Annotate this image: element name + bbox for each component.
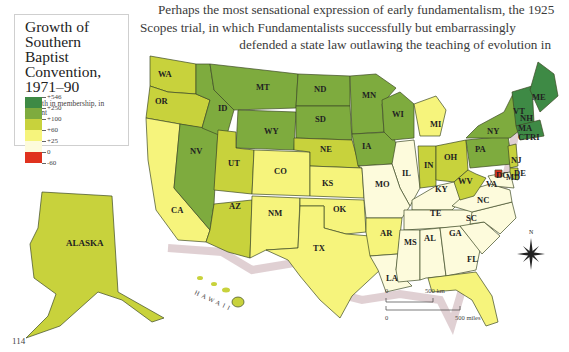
compass-rose-icon: N [517, 229, 545, 270]
svg-text:WI: WI [392, 109, 405, 119]
svg-text:SD: SD [315, 114, 326, 124]
svg-text:WY: WY [264, 126, 279, 136]
state-MI [414, 96, 446, 136]
svg-text:NM: NM [268, 208, 282, 218]
svg-text:NV: NV [190, 146, 203, 156]
svg-text:AR: AR [380, 228, 393, 238]
swatch-100 [25, 119, 42, 130]
legend-label: -60 [47, 159, 56, 167]
svg-text:MD: MD [506, 172, 520, 182]
svg-text:500 miles: 500 miles [455, 314, 481, 321]
svg-text:NH: NH [520, 113, 533, 123]
svg-text:WV: WV [458, 176, 474, 186]
legend-title: Growth of Southern Baptist Convention, 1… [25, 19, 128, 94]
swatch-0 [25, 152, 42, 163]
svg-text:AZ: AZ [229, 201, 241, 211]
svg-text:OR: OR [155, 96, 169, 106]
swatch-250 [25, 108, 42, 119]
svg-text:IA: IA [362, 141, 372, 151]
state-PA [466, 136, 512, 168]
svg-text:MO: MO [375, 179, 390, 189]
swatch-546 [25, 97, 42, 108]
svg-text:KY: KY [435, 184, 448, 194]
page-number: 114 [12, 336, 25, 346]
svg-text:ALASKA: ALASKA [66, 238, 104, 248]
svg-text:MT: MT [256, 82, 270, 92]
legend-label: +546 [47, 93, 61, 101]
swatch-25 [25, 141, 42, 152]
svg-text:RI: RI [530, 132, 540, 142]
svg-text:MN: MN [362, 90, 377, 100]
state-ALASKA [26, 192, 164, 338]
svg-text:LA: LA [386, 273, 399, 283]
legend-label: +60 [47, 126, 58, 134]
svg-text:KS: KS [322, 178, 334, 188]
svg-text:IN: IN [424, 160, 434, 170]
svg-text:NE: NE [320, 144, 332, 154]
state-KS [310, 166, 364, 198]
svg-text:UT: UT [228, 158, 240, 168]
svg-text:OK: OK [333, 204, 347, 214]
legend-label: +100 [47, 115, 61, 123]
svg-text:VA: VA [486, 179, 498, 189]
svg-text:SC: SC [466, 213, 477, 223]
map-legend: Growth of Southern Baptist Convention, 1… [14, 14, 129, 146]
svg-text:WA: WA [158, 69, 173, 79]
svg-text:OH: OH [444, 152, 458, 162]
legend-label: +250 [47, 104, 61, 112]
svg-text:0: 0 [385, 287, 388, 294]
svg-text:0: 0 [385, 314, 388, 321]
svg-text:TE: TE [430, 208, 442, 218]
svg-text:NY: NY [487, 126, 499, 136]
svg-text:CT: CT [518, 132, 530, 142]
svg-text:CO: CO [274, 166, 287, 176]
svg-text:NC: NC [477, 195, 489, 205]
svg-text:NJ: NJ [511, 155, 522, 165]
legend-label: +25 [47, 137, 58, 145]
svg-text:TX: TX [313, 243, 326, 253]
svg-text:MS: MS [404, 237, 417, 247]
state-ME [530, 62, 558, 112]
svg-text:500 km: 500 km [425, 287, 445, 294]
svg-text:IL: IL [402, 168, 411, 178]
legend-label: 0 [47, 148, 51, 156]
svg-text:PA: PA [475, 144, 487, 154]
svg-text:GA: GA [449, 228, 463, 238]
swatch-60 [25, 130, 42, 141]
svg-text:ME: ME [532, 92, 546, 102]
svg-text:ND: ND [314, 84, 326, 94]
svg-text:MI: MI [430, 119, 442, 129]
svg-text:ID: ID [218, 103, 227, 113]
svg-text:FL: FL [467, 254, 478, 264]
svg-text:CA: CA [171, 205, 184, 215]
svg-text:N: N [529, 229, 534, 235]
svg-text:AL: AL [424, 233, 436, 243]
